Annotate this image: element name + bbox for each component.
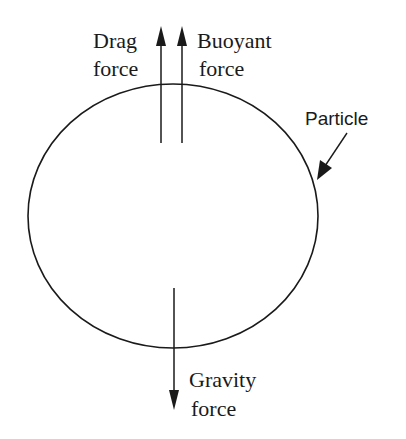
gravity-force-label-line1: Gravity <box>189 368 256 392</box>
drag-force-label-line1: Drag <box>93 29 137 53</box>
particle-shape <box>28 84 318 348</box>
gravity-force-arrow <box>169 288 179 410</box>
arrowhead-down-icon <box>169 390 179 410</box>
buoyant-force-label-line1: Buoyant <box>197 29 272 53</box>
arrowhead-up-icon <box>156 26 166 46</box>
particle-label: Particle <box>305 108 368 130</box>
arrowhead-up-icon <box>177 26 187 46</box>
arrowhead-pointer-icon <box>317 160 332 180</box>
gravity-force-label-line2: force <box>191 397 236 421</box>
particle-pointer-arrow <box>317 133 347 180</box>
buoyant-force-label-line2: force <box>199 57 244 81</box>
drag-force-label-line2: force <box>93 57 138 81</box>
